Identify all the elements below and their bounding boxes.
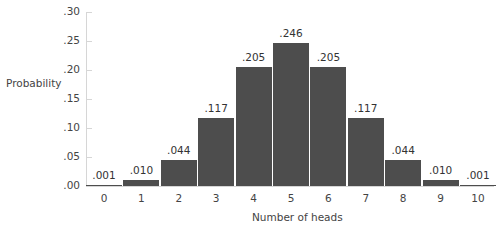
bar-1 bbox=[123, 180, 159, 186]
x-tick-label: 6 bbox=[313, 192, 343, 204]
y-tick-label: .05 bbox=[50, 150, 80, 162]
y-tick-mark bbox=[86, 157, 92, 158]
bar-10 bbox=[460, 185, 496, 186]
y-tick-label: .25 bbox=[50, 34, 80, 46]
x-tick-label: 10 bbox=[463, 192, 493, 204]
x-axis-label: Number of heads bbox=[252, 211, 343, 223]
x-tick-label: 8 bbox=[388, 192, 418, 204]
x-tick-label: 9 bbox=[426, 192, 456, 204]
bar-2 bbox=[161, 160, 197, 186]
x-tick-label: 4 bbox=[239, 192, 269, 204]
y-tick-label: .00 bbox=[50, 179, 80, 191]
bar-6 bbox=[310, 67, 346, 186]
y-tick-mark bbox=[86, 70, 92, 71]
x-tick-label: 1 bbox=[126, 192, 156, 204]
x-tick-label: 5 bbox=[276, 192, 306, 204]
bar-9 bbox=[423, 180, 459, 186]
bar-value-label: .001 bbox=[84, 169, 124, 181]
x-axis-line bbox=[86, 186, 494, 187]
y-tick-label: .15 bbox=[50, 92, 80, 104]
y-tick-label: .20 bbox=[50, 63, 80, 75]
bar-7 bbox=[348, 118, 384, 186]
y-tick-label: .30 bbox=[50, 5, 80, 17]
y-tick-label: .10 bbox=[50, 121, 80, 133]
bar-8 bbox=[385, 160, 421, 186]
bar-0 bbox=[86, 185, 122, 186]
y-tick-mark bbox=[86, 99, 92, 100]
bar-value-label: .205 bbox=[308, 51, 348, 63]
bar-value-label: .044 bbox=[383, 144, 423, 156]
bar-value-label: .117 bbox=[196, 102, 236, 114]
bar-chart: Probability .00.05.10.15.20.25.30 .001.0… bbox=[0, 0, 504, 228]
bar-value-label: .044 bbox=[159, 144, 199, 156]
x-tick-label: 2 bbox=[164, 192, 194, 204]
y-axis-label: Probability bbox=[6, 77, 62, 89]
bar-5 bbox=[273, 43, 309, 186]
bar-value-label: .010 bbox=[121, 164, 161, 176]
bar-value-label: .246 bbox=[271, 27, 311, 39]
bar-value-label: .205 bbox=[234, 51, 274, 63]
y-tick-mark bbox=[86, 12, 92, 13]
x-tick-label: 3 bbox=[201, 192, 231, 204]
x-tick-label: 0 bbox=[89, 192, 119, 204]
y-tick-mark bbox=[86, 41, 92, 42]
bar-3 bbox=[198, 118, 234, 186]
y-tick-mark bbox=[86, 128, 92, 129]
bar-4 bbox=[236, 67, 272, 186]
bar-value-label: .117 bbox=[346, 102, 386, 114]
bar-value-label: .010 bbox=[421, 164, 461, 176]
bar-value-label: .001 bbox=[458, 169, 498, 181]
x-tick-label: 7 bbox=[351, 192, 381, 204]
